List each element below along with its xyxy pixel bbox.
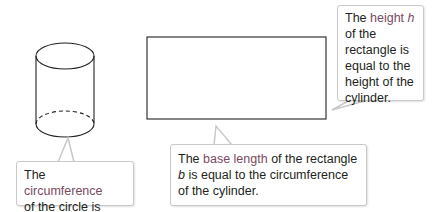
callout-text: The [178, 152, 203, 166]
cylinder-shape [36, 43, 94, 137]
callout-text: of the rectangle is equal to the height … [345, 27, 414, 105]
cylinder-bottom-back-arc-dashed [36, 111, 94, 124]
variable-b: b [178, 168, 185, 182]
height-callout: The height h of the rectangle is equal t… [337, 5, 424, 101]
rectangle-shape [147, 37, 326, 119]
variable-h: h [404, 11, 414, 25]
circumference-callout: The circumference of the circle is 2πr. [16, 161, 134, 206]
cylinder-top-ellipse [36, 43, 94, 69]
base-length-callout: The base length of the rectangle b is eq… [170, 144, 367, 206]
callout-text: The [24, 168, 46, 182]
callout-highlight-term: circumference [24, 184, 103, 198]
bottom-callout-pointer [214, 126, 232, 145]
callout-text: is equal to the circumference of the cyl… [178, 168, 348, 198]
cylinder-bottom-front-arc [36, 124, 94, 137]
callout-highlight-term: height [370, 11, 404, 25]
callout-text: The [345, 11, 370, 25]
left-callout-pointer [58, 138, 74, 162]
callout-text: of the rectangle [268, 152, 358, 166]
callout-text: of the circle is [24, 200, 100, 212]
callout-highlight-term: base length [203, 152, 268, 166]
